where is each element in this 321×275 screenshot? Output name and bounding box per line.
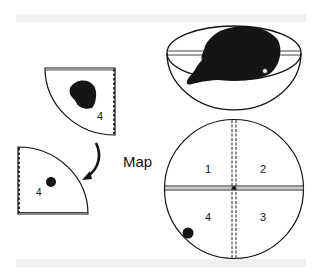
curved-arrow-icon xyxy=(82,143,99,180)
quadrant-2-label: 2 xyxy=(260,163,266,175)
lower-wedge: 4 xyxy=(18,147,88,214)
hemisphere-to-map-diagram: 4 Map 4 1 2 3 4 xyxy=(0,0,321,275)
specimen-dot xyxy=(46,177,56,187)
map-circle: 1 2 3 4 xyxy=(165,120,305,259)
lower-wedge-label: 4 xyxy=(36,187,42,198)
quadrant-1-label: 1 xyxy=(205,163,211,175)
small-ring xyxy=(263,69,268,74)
map-label: Map xyxy=(123,153,152,170)
quadrant-4-label: 4 xyxy=(205,211,211,223)
map-specimen-dot xyxy=(183,228,194,239)
upper-wedge-label: 4 xyxy=(97,110,103,122)
upper-wedge: 4 xyxy=(45,68,115,135)
quadrant-3-label: 3 xyxy=(260,211,266,223)
